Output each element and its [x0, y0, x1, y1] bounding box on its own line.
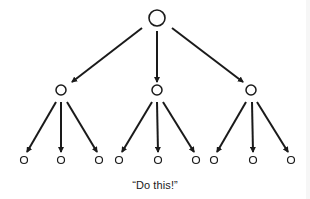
mid-center-node-circle: [152, 85, 162, 95]
tree-diagram: [0, 0, 310, 199]
leaf-6-node-circle: [193, 157, 200, 164]
mid-right-node-circle: [246, 85, 256, 95]
leaf-2-node-circle: [58, 157, 65, 164]
arrow-mid-right-to-leaf-7: [217, 102, 246, 152]
leaf-9-node-circle: [288, 157, 295, 164]
arrow-mid-right-to-leaf-8: [252, 102, 253, 152]
arrow-mid-center-to-leaf-6: [163, 102, 194, 152]
leaf-5-node-circle: [155, 157, 162, 164]
root-node-group: [149, 10, 165, 26]
diagram-caption: “Do this!”: [0, 179, 310, 191]
child-edges: [27, 102, 288, 152]
arrow-mid-center-to-leaf-5: [157, 102, 158, 152]
root-edges: [72, 28, 243, 82]
leaf-3-node-circle: [96, 157, 103, 164]
root-node-circle: [149, 10, 165, 26]
leaf-1-node-circle: [21, 157, 28, 164]
arrow-root-to-mid-right: [172, 28, 243, 82]
arrow-mid-left-to-leaf-3: [67, 102, 97, 152]
mid-left-node-circle: [56, 85, 66, 95]
level1-node-group: [56, 85, 256, 95]
leaf-node-group: [21, 157, 295, 164]
leaf-8-node-circle: [250, 157, 257, 164]
arrow-mid-left-to-leaf-1: [27, 102, 56, 152]
arrow-mid-center-to-leaf-4: [122, 102, 152, 152]
leaf-7-node-circle: [211, 157, 218, 164]
arrow-root-to-mid-left: [72, 28, 142, 82]
arrow-mid-right-to-leaf-9: [257, 102, 288, 152]
leaf-4-node-circle: [116, 157, 123, 164]
